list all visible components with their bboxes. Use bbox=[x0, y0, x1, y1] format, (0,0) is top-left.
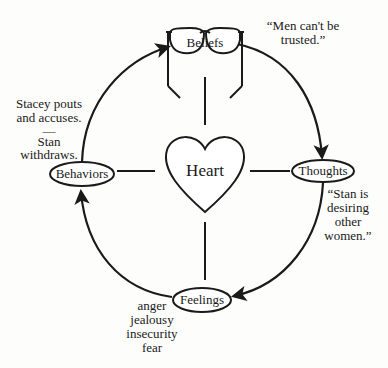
feelings-annotation: anger jealousy insecurity fear bbox=[126, 298, 178, 355]
feelings-annotation-line: anger bbox=[138, 298, 168, 313]
thoughts-annotation-line: other bbox=[335, 214, 362, 229]
heart-label: Heart bbox=[186, 161, 224, 180]
heart-node: Heart bbox=[166, 137, 244, 212]
feelings-annotation-line: jealousy bbox=[129, 312, 174, 327]
heart-cycle-diagram: Heart Beliefs Thoughts Feelings Behavior… bbox=[0, 0, 388, 368]
thoughts-annotation-line: “Stan is bbox=[328, 186, 369, 201]
feelings-label: Feelings bbox=[180, 292, 224, 307]
thoughts-node: Thoughts bbox=[292, 160, 354, 182]
thoughts-annotation-line: women.” bbox=[324, 228, 372, 243]
behaviors-label: Behaviors bbox=[56, 166, 109, 181]
thoughts-annotation: “Stan is desiring other women.” bbox=[324, 186, 372, 243]
arrow-beliefs-to-thoughts bbox=[237, 44, 322, 157]
beliefs-annotation-line: “Men can't be bbox=[267, 18, 340, 33]
beliefs-annotation-line: trusted.” bbox=[281, 32, 326, 47]
arrow-behaviors-to-beliefs bbox=[82, 47, 168, 162]
behaviors-annotation-line: withdraws. bbox=[20, 147, 77, 162]
beliefs-annotation: “Men can't be trusted.” bbox=[267, 18, 340, 47]
feelings-node: Feelings bbox=[173, 288, 231, 312]
behaviors-annotation-line: Stacey pouts bbox=[16, 96, 82, 111]
arrow-feelings-to-behaviors bbox=[81, 192, 172, 297]
thoughts-label: Thoughts bbox=[298, 163, 347, 178]
behaviors-annotation: Stacey pouts and accuses. — Stan withdra… bbox=[16, 96, 82, 162]
feelings-annotation-line: fear bbox=[142, 340, 163, 355]
feelings-annotation-line: insecurity bbox=[126, 326, 178, 341]
thoughts-annotation-line: desiring bbox=[327, 200, 369, 215]
behaviors-node: Behaviors bbox=[50, 162, 114, 186]
arrow-thoughts-to-feelings bbox=[234, 183, 323, 296]
beliefs-label: Beliefs bbox=[187, 35, 224, 50]
